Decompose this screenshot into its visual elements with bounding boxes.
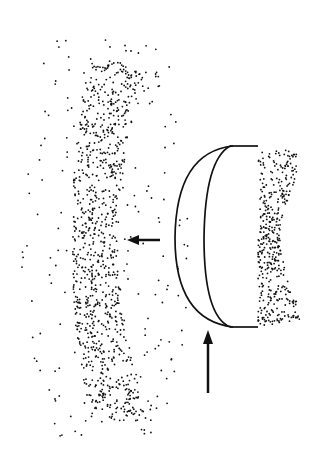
- arrow-up-icon: [203, 330, 213, 393]
- stipple-dots: [21, 39, 300, 437]
- lens-body: [175, 146, 258, 327]
- stipple-diagram: [0, 0, 323, 461]
